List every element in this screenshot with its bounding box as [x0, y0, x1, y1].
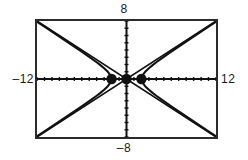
- graphing-calculator-screen: 8 –12 12 –8: [0, 0, 248, 160]
- series-hyperbola-right-branch: [141, 22, 216, 79]
- series-hyperbola-left-branch-lower: [37, 79, 112, 136]
- window-label-ymax: 8: [0, 3, 248, 15]
- points-layer: [106, 74, 146, 84]
- window-label-xmax: 12: [221, 73, 247, 85]
- point-center-origin: [121, 74, 131, 84]
- window-label-xmin: –12: [2, 73, 34, 85]
- plot-canvas: [37, 21, 216, 137]
- point-vertex-right: [136, 74, 146, 84]
- plot-frame: [35, 19, 218, 139]
- point-vertex-left: [106, 74, 116, 84]
- window-label-ymin: –8: [0, 142, 248, 154]
- series-hyperbola-left-branch-upper: [37, 22, 112, 79]
- series-hyperbola-right-branch-lower: [141, 79, 216, 136]
